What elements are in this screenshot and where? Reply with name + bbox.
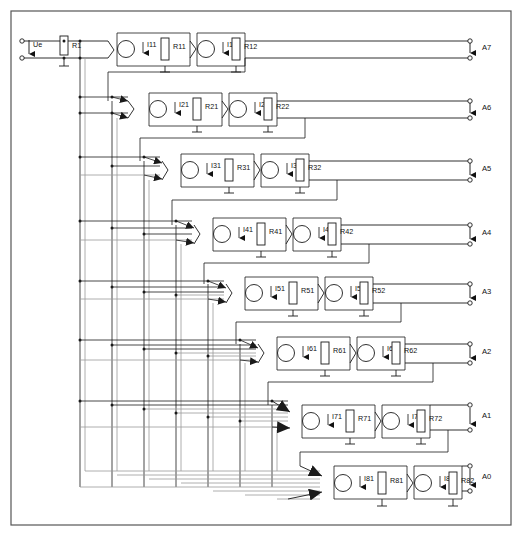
I61-label: I61 xyxy=(307,344,317,353)
row-1-group: I11 R11 I12 R12 xyxy=(96,33,468,101)
resistor-R12 xyxy=(232,38,240,60)
row-3-group: I31 R31 I32 R32 xyxy=(79,154,469,225)
R12-label: R12 xyxy=(244,42,257,51)
A2-label: A2 xyxy=(482,347,491,356)
R81-label: R81 xyxy=(390,476,403,485)
R61-label: R61 xyxy=(333,346,346,355)
row-6-funnel xyxy=(258,344,264,363)
A1-label: A1 xyxy=(482,411,491,420)
current-source-I22 xyxy=(230,101,247,118)
junction-r1-top xyxy=(63,40,66,43)
R31-label: R31 xyxy=(237,163,250,172)
output-terminal-A6-top xyxy=(468,99,472,103)
current-source-I51 xyxy=(246,285,263,302)
resistor-R41 xyxy=(257,223,265,245)
output-terminal-A0-top xyxy=(468,464,472,468)
row-6-funnel-2 xyxy=(350,344,356,363)
junction-row7-c xyxy=(143,408,146,411)
row-2-fan-top xyxy=(112,97,128,101)
current-source-I11 xyxy=(118,41,135,58)
resistor-R51 xyxy=(289,282,297,304)
R82-label: R82 xyxy=(461,476,474,485)
current-source-I62 xyxy=(358,345,375,362)
R22-label: R22 xyxy=(276,102,289,111)
row-7-fan-top xyxy=(272,401,290,412)
row-4-fan-bot xyxy=(176,240,194,243)
A4-label: A4 xyxy=(482,228,491,237)
junction-row6-c xyxy=(143,348,146,351)
junction-row4-d xyxy=(175,220,178,223)
output-terminal-A6-bot xyxy=(468,116,472,120)
row-4-group: I41 R41 I42 R42 xyxy=(79,218,469,284)
resistor-R81 xyxy=(378,472,386,494)
resistor-R52 xyxy=(360,282,368,304)
row-3-fan-bot xyxy=(144,175,162,179)
row-2-group: I21 R21 I22 R22 xyxy=(79,93,469,161)
input-stage: Ue R1 xyxy=(20,36,96,66)
junction-row5-a xyxy=(79,280,82,283)
R11-label: R11 xyxy=(173,42,186,51)
junction-row6-a xyxy=(79,339,82,342)
junction-row7-e xyxy=(207,416,210,419)
row-6-fan-top xyxy=(240,340,258,348)
output-terminal-A7-top xyxy=(468,39,472,43)
I11-label: I11 xyxy=(147,40,156,49)
current-source-I41 xyxy=(214,226,231,243)
junction-row5-d xyxy=(175,294,178,297)
I21-label: I21 xyxy=(179,100,189,109)
output-terminal-A1-bot xyxy=(468,428,472,432)
current-source-I71 xyxy=(303,413,320,430)
resistor-R32 xyxy=(296,159,304,181)
output-terminal-A4-top xyxy=(468,223,472,227)
output-terminal-A4-bot xyxy=(468,242,472,246)
input-terminal-bottom xyxy=(20,56,24,60)
junction-row5-e xyxy=(207,280,210,283)
row-8-fan-bot xyxy=(288,492,322,499)
junction-row3-a xyxy=(79,156,82,159)
junction-row5-c xyxy=(143,291,146,294)
row-8-group: I81 R81 I82 R82 xyxy=(80,466,474,506)
A7-label: A7 xyxy=(482,43,491,52)
row-7-funnel-2 xyxy=(375,412,381,431)
row-4-funnel-2 xyxy=(286,225,292,244)
input-terminal-top xyxy=(20,39,24,43)
I71-label: I71 xyxy=(332,412,342,421)
circuit-diagram-canvas: Ue R1 xyxy=(0,0,522,539)
junction-row3-b xyxy=(111,165,114,168)
row-2-fan-bot xyxy=(112,113,128,118)
R32-label: R32 xyxy=(308,163,321,172)
output-terminal-A3-top xyxy=(468,282,472,286)
row-7-group: I71 R71 I72 R72 xyxy=(79,400,469,467)
current-source-I31 xyxy=(182,162,199,179)
junction-row3-c xyxy=(143,156,146,159)
R71-label: R71 xyxy=(358,414,371,423)
junction-row7-a xyxy=(79,400,82,403)
junction-r1-bot xyxy=(63,57,66,60)
output-terminal-A2-top xyxy=(468,342,472,346)
resistor-R61 xyxy=(321,342,329,364)
schematic-svg: Ue R1 xyxy=(0,0,522,539)
row-3-fan-top xyxy=(144,157,162,163)
row-3-funnel-2 xyxy=(254,161,260,180)
resistor-R11 xyxy=(161,38,169,60)
resistor-R1 xyxy=(60,36,68,55)
R21-label: R21 xyxy=(205,102,218,111)
output-terminals-group: A7 A6 A5 A4 A3 A2 xyxy=(468,39,491,493)
row-6-group: I61 R61 I62 R62 xyxy=(79,337,469,405)
current-source-I81 xyxy=(335,475,352,492)
resistor-R22 xyxy=(264,98,272,120)
junction-row6-d xyxy=(175,352,178,355)
resistor-R21 xyxy=(193,98,201,120)
I81-label: I81 xyxy=(364,474,374,483)
junction-row7-b xyxy=(111,404,114,407)
junction-row6-b xyxy=(111,344,114,347)
resistor-R71 xyxy=(346,410,354,432)
row-1-funnel xyxy=(96,41,114,58)
output-terminal-A2-bot xyxy=(468,361,472,365)
resistor-R62 xyxy=(392,342,400,364)
I41-label: I41 xyxy=(243,225,253,234)
diagram-frame xyxy=(11,11,511,525)
A6-label: A6 xyxy=(482,103,491,112)
junction-row4-c xyxy=(143,233,146,236)
junction-row4-b xyxy=(111,227,114,230)
